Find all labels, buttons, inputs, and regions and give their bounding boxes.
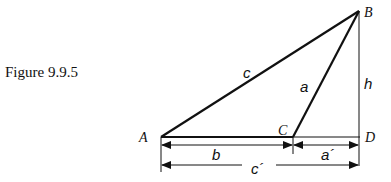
dimension-label-b: b	[212, 146, 220, 163]
side-label-a: a	[300, 78, 308, 95]
side-label-c: c	[243, 64, 251, 81]
dimension-label-c-prime: c´	[251, 160, 264, 177]
side-a	[293, 11, 359, 137]
dimension-label-a-prime: a´	[321, 146, 334, 163]
vertex-label-c: C	[278, 123, 288, 138]
side-label-h: h	[364, 75, 372, 92]
vertex-label-b: B	[364, 5, 373, 20]
side-c	[161, 11, 359, 137]
triangle-diagram: A B C D c a h b a´ c´	[0, 0, 391, 182]
vertex-label-d: D	[364, 130, 375, 145]
vertex-label-a: A	[138, 130, 148, 145]
